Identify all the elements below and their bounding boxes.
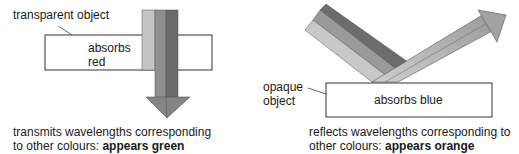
transparent-object-label: transparent object	[13, 8, 109, 22]
reflects-caption-line2: other colours: appears orange	[309, 139, 474, 153]
reflects-caption-prefix: other colours:	[309, 139, 385, 153]
absorbs-red-line1: absorbs	[88, 41, 131, 55]
opaque-object-label-line2: object	[263, 94, 295, 108]
beam-stripe-light	[142, 10, 155, 70]
beam-stripe-mid	[155, 10, 166, 98]
absorbs-blue-label: absorbs blue	[374, 93, 443, 107]
absorbs-red-line2: red	[88, 55, 105, 69]
transmitted-arrowhead	[146, 97, 190, 118]
transmits-caption-line2: to other colours: appears green	[13, 139, 184, 153]
appears-orange-label: appears orange	[385, 139, 474, 153]
transmits-caption-prefix: to other colours:	[13, 139, 102, 153]
reflected-arrow-shaft	[372, 14, 494, 82]
transparent-object-group	[45, 10, 212, 118]
reflects-caption-line1: reflects wavelengths corresponding to	[309, 125, 510, 139]
opaque-object-label-line1: opaque	[263, 80, 303, 94]
appears-green-label: appears green	[102, 139, 184, 153]
beam-stripe-dark	[166, 10, 178, 98]
transmits-caption-line1: transmits wavelengths corresponding	[13, 125, 211, 139]
opaque-object-leader-line	[308, 88, 326, 94]
transparent-object-leader-line	[58, 26, 72, 35]
